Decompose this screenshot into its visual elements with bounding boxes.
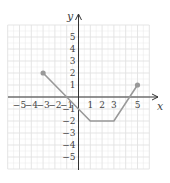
endpoint-dot: [135, 82, 140, 87]
x-tick-label: 2: [99, 100, 105, 110]
x-tick-label: 3: [111, 100, 117, 110]
x-axis-label: x: [157, 100, 164, 113]
y-tick-label: −4: [62, 140, 76, 150]
y-axis-label: y: [66, 10, 74, 23]
coordinate-plane: xy−5−4−3−2−1123554321−1−2−3−4−5: [0, 0, 170, 183]
endpoint-dot: [41, 70, 46, 75]
x-tick-label: 5: [135, 100, 141, 110]
y-tick-label: 5: [70, 32, 76, 42]
y-tick-label: 4: [70, 44, 76, 54]
x-tick-label: 1: [87, 100, 93, 110]
y-tick-label: −5: [62, 152, 76, 162]
y-tick-label: −1: [62, 104, 75, 114]
y-tick-label: 2: [70, 68, 76, 78]
y-tick-label: 1: [70, 80, 76, 90]
y-tick-label: −2: [62, 116, 75, 126]
y-tick-label: −3: [62, 128, 76, 138]
y-tick-label: 3: [70, 56, 76, 66]
